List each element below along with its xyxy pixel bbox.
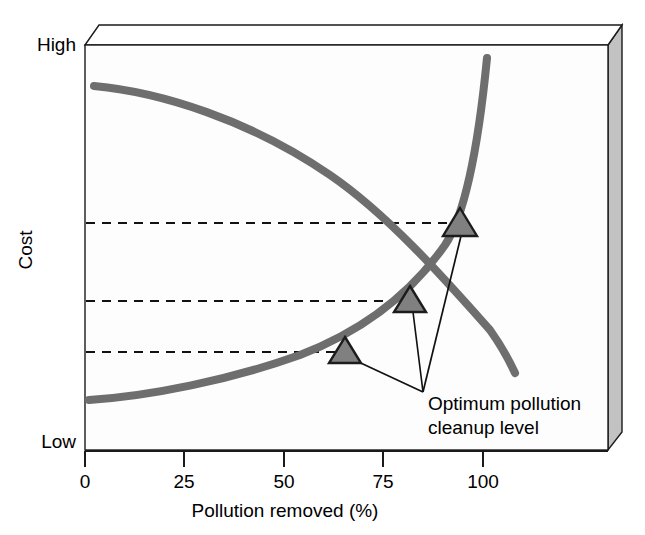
annotation-line-1: Optimum pollution [428,393,581,414]
panel-3d-side [608,25,622,450]
y-axis-label-high: High [37,34,76,55]
x-axis-title: Pollution removed (%) [192,500,379,521]
y-axis-label-low: Low [41,431,76,452]
y-axis-title: Cost [15,230,36,270]
panel-3d-top [85,25,622,45]
x-tick-label-0: 0 [80,471,91,492]
x-tick-label-25: 25 [173,471,194,492]
x-tick-label-100: 100 [467,471,499,492]
x-tick-label-50: 50 [273,471,294,492]
x-axis: 0 25 50 75 100 [80,451,608,492]
pollution-cost-chart: Optimum pollution cleanup level 0 25 50 … [0,0,645,535]
annotation-line-2: cleanup level [428,417,539,438]
x-tick-label-75: 75 [372,471,393,492]
